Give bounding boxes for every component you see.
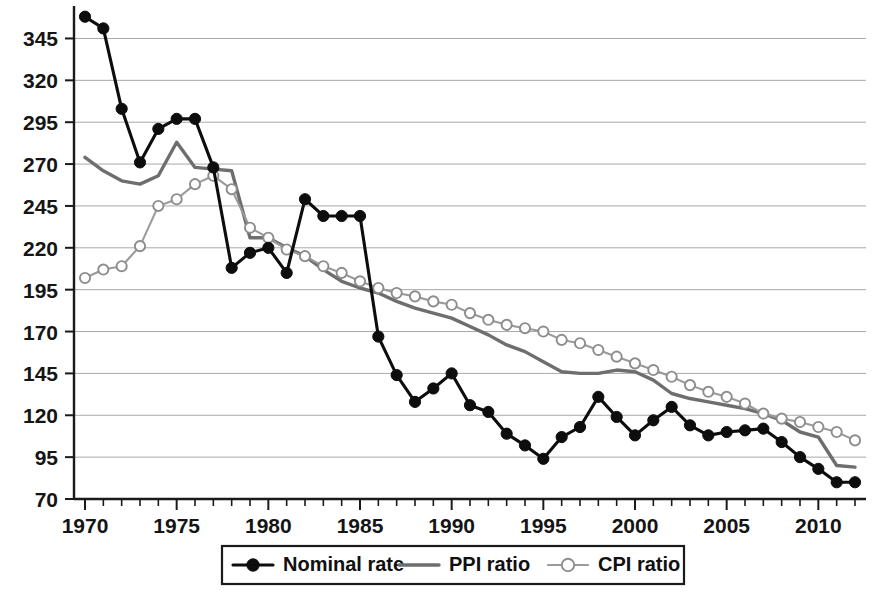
y-tick-label-220: 220 [23, 237, 58, 260]
cpi-ratio-point-1987 [392, 288, 402, 298]
cpi-ratio-point-1971 [98, 264, 108, 274]
nominal-rate-point-2012 [849, 477, 860, 488]
nominal-rate-point-2009 [794, 452, 805, 463]
nominal-rate-point-2007 [758, 423, 769, 434]
nominal-rate-point-1998 [593, 391, 604, 402]
cpi-ratio-point-1986 [373, 283, 383, 293]
x-tick-label-2000: 2000 [612, 514, 659, 537]
nominal-rate-point-1983 [318, 210, 329, 221]
y-tick-label-120: 120 [23, 404, 58, 427]
cpi-ratio-point-2004 [703, 387, 713, 397]
nominal-rate-point-1979 [244, 247, 255, 258]
nominal-rate-point-2008 [776, 436, 787, 447]
y-tick-label-245: 245 [23, 195, 58, 218]
nominal-rate-point-1972 [116, 103, 127, 114]
nominal-rate-point-2004 [703, 430, 714, 441]
cpi-ratio-point-1993 [502, 320, 512, 330]
nominal-rate-point-2003 [684, 420, 695, 431]
x-tick-label-2005: 2005 [703, 514, 750, 537]
nominal-rate-point-1974 [153, 123, 164, 134]
cpi-ratio-point-1994 [520, 323, 530, 333]
x-tick-label-1990: 1990 [428, 514, 475, 537]
series-ppi-ratio [85, 142, 855, 467]
cpi-ratio-point-2001 [648, 365, 658, 375]
nominal-rate-point-2002 [666, 401, 677, 412]
x-axis [74, 499, 866, 510]
cpi-ratio-point-2009 [795, 417, 805, 427]
cpi-ratio-point-2010 [813, 422, 823, 432]
legend-swatch-marker-cpi-ratio [562, 559, 574, 571]
cpi-ratio-point-1989 [428, 296, 438, 306]
y-axis [65, 6, 74, 499]
nominal-rate-point-1973 [134, 157, 145, 168]
series-nominal-rate [79, 11, 860, 488]
nominal-rate-point-1988 [409, 396, 420, 407]
cpi-ratio-point-1988 [410, 291, 420, 301]
cpi-ratio-point-1970 [80, 273, 90, 283]
y-tick-label-170: 170 [23, 321, 58, 344]
nominal-rate-point-1980 [263, 242, 274, 253]
cpi-ratio-point-1985 [355, 276, 365, 286]
x-tick-label-1980: 1980 [245, 514, 292, 537]
nominal-rate-point-1994 [519, 440, 530, 451]
nominal-rate-point-2010 [813, 463, 824, 474]
nominal-rate-point-1977 [208, 162, 219, 173]
legend-label-nominal-rate: Nominal rate [283, 553, 404, 575]
nominal-rate-point-1990 [446, 368, 457, 379]
nominal-rate-point-1981 [281, 267, 292, 278]
legend-swatch-marker-nominal-rate [247, 559, 259, 571]
legend-label-cpi-ratio: CPI ratio [598, 553, 680, 575]
nominal-rate-point-2005 [721, 426, 732, 437]
cpi-ratio-point-1975 [172, 194, 182, 204]
y-tick-labels: 3453202952702452201951701451209570 [23, 27, 58, 511]
y-tick-label-195: 195 [23, 279, 58, 302]
cpi-ratio-point-2003 [685, 380, 695, 390]
x-tick-label-1975: 1975 [153, 514, 200, 537]
cpi-ratio-point-2012 [850, 435, 860, 445]
gridlines [74, 38, 866, 457]
cpi-ratio-point-1982 [300, 251, 310, 261]
nominal-rate-point-2011 [831, 477, 842, 488]
y-tick-label-320: 320 [23, 69, 58, 92]
legend-label-ppi-ratio: PPI ratio [449, 553, 530, 575]
y-tick-label-270: 270 [23, 153, 58, 176]
nominal-rate-point-1993 [501, 428, 512, 439]
cpi-ratio-point-1976 [190, 179, 200, 189]
x-tick-label-1995: 1995 [520, 514, 567, 537]
x-tick-label-1970: 1970 [62, 514, 109, 537]
y-tick-label-345: 345 [23, 27, 58, 50]
x-tick-label-1985: 1985 [337, 514, 384, 537]
nominal-rate-point-2001 [648, 415, 659, 426]
nominal-rate-point-2000 [629, 430, 640, 441]
nominal-rate-point-1975 [171, 113, 182, 124]
cpi-ratio-point-1983 [318, 261, 328, 271]
cpi-ratio-point-2006 [740, 398, 750, 408]
nominal-rate-point-1982 [299, 194, 310, 205]
line-chart: 3453202952702452201951701451209570 19701… [0, 0, 885, 603]
nominal-rate-point-1999 [611, 411, 622, 422]
y-tick-label-70: 70 [35, 488, 58, 511]
nominal-rate-point-1976 [189, 113, 200, 124]
nominal-rate-point-1996 [556, 431, 567, 442]
cpi-ratio-point-1990 [447, 300, 457, 310]
cpi-ratio-point-2007 [758, 408, 768, 418]
cpi-ratio-point-1980 [263, 233, 273, 243]
cpi-ratio-point-1974 [153, 201, 163, 211]
x-tick-labels: 197019751980198519901995200020052010 [62, 514, 842, 537]
nominal-rate-point-1970 [79, 11, 90, 22]
ppi-ratio-line [85, 142, 855, 467]
nominal-rate-point-1986 [373, 331, 384, 342]
nominal-rate-point-1978 [226, 262, 237, 273]
cpi-ratio-point-1997 [575, 338, 585, 348]
y-tick-label-295: 295 [23, 111, 58, 134]
legend: Nominal ratePPI ratioCPI ratio [222, 546, 684, 584]
nominal-rate-point-1971 [98, 23, 109, 34]
cpi-ratio-point-1984 [337, 268, 347, 278]
nominal-rate-point-1992 [483, 406, 494, 417]
nominal-rate-point-1997 [574, 421, 585, 432]
cpi-ratio-point-1972 [117, 261, 127, 271]
y-tick-label-95: 95 [35, 446, 59, 469]
cpi-ratio-point-1991 [465, 308, 475, 318]
chart-container: 3453202952702452201951701451209570 19701… [0, 0, 885, 603]
cpi-ratio-point-2008 [777, 414, 787, 424]
